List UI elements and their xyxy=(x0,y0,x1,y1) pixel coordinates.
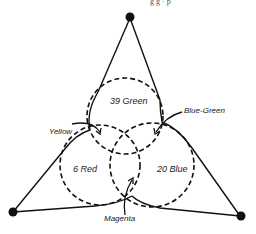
bottom-right-node xyxy=(237,212,246,221)
blue-green-label: Blue-Green xyxy=(184,106,225,115)
top-node xyxy=(126,13,135,22)
top-left-line xyxy=(98,18,130,92)
yellow-label: Yellow xyxy=(49,127,73,136)
top-right-line xyxy=(130,18,160,100)
venn-triangle-diagram: g g · p 39 Green 6 Red 20 Blue xyxy=(0,0,256,234)
outer-paths xyxy=(13,18,240,216)
green-label: 39 Green xyxy=(110,96,148,106)
bottom-left-node xyxy=(9,208,18,217)
magenta-label: Magenta xyxy=(104,214,136,223)
blue-green-arrow xyxy=(156,112,182,132)
blue-label: 20 Blue xyxy=(156,164,188,174)
red-label: 6 Red xyxy=(73,164,98,174)
cutoff-text: g g · p xyxy=(150,0,171,6)
red-circle xyxy=(60,125,140,205)
right-line xyxy=(160,100,240,216)
bottom-left-line xyxy=(13,196,132,212)
bottom-right-line xyxy=(132,196,240,216)
